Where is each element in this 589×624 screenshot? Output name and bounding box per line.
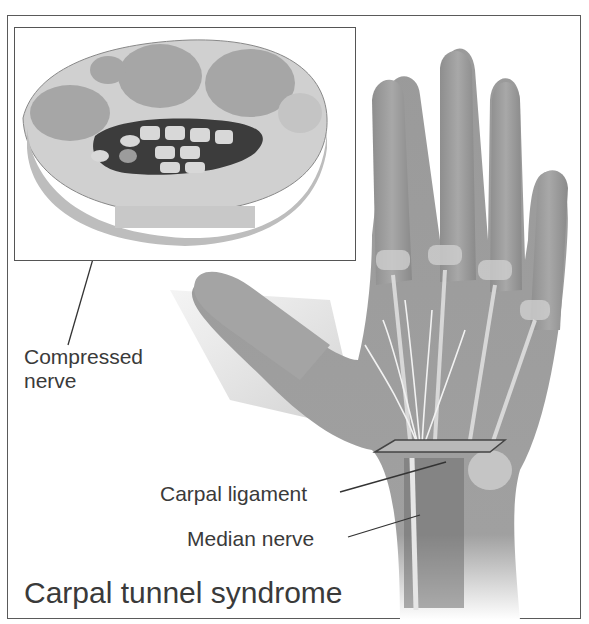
compressed-nerve-label-line2: nerve (24, 369, 143, 393)
figure-title: Carpal tunnel syndrome (24, 576, 343, 610)
median-nerve-label: Median nerve (187, 527, 314, 551)
carpal-ligament-label: Carpal ligament (160, 482, 307, 506)
compressed-nerve-label: Compressed nerve (24, 345, 143, 393)
carpal-ligament-band (375, 440, 505, 452)
wrist-cross-section (15, 28, 356, 261)
compressed-nerve-label-line1: Compressed (24, 345, 143, 369)
cross-section-inset (14, 27, 356, 261)
